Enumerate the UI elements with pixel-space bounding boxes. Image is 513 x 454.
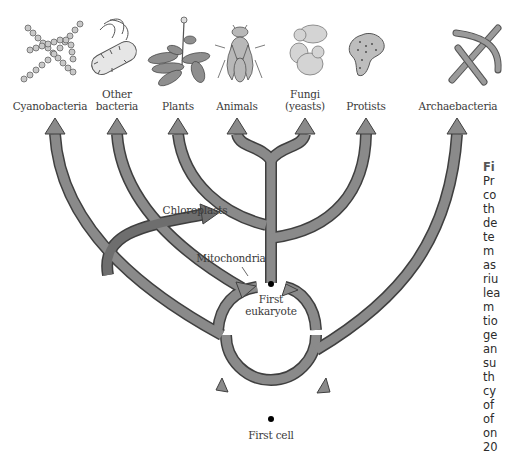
- fly-icon: [215, 25, 265, 82]
- caption-line: riu: [483, 272, 513, 286]
- caption-line: te: [483, 230, 513, 244]
- label-mitochondria: Mitochondria: [194, 252, 268, 264]
- caption-line: as: [483, 258, 513, 272]
- label-fungi-line1: Fungi: [280, 88, 330, 100]
- bacterium-icon: [88, 19, 140, 78]
- label-plants: Plants: [158, 100, 198, 112]
- caption-line: de: [483, 216, 513, 230]
- first-eukaryote-node: [268, 281, 274, 287]
- label-fungi: Fungi (yeasts): [280, 88, 330, 112]
- caption-line: an: [483, 342, 513, 356]
- caption-line: Pr: [483, 174, 513, 188]
- arrow-circle-right: [317, 378, 330, 393]
- arrow-plants: [168, 118, 188, 134]
- caption-line: 20: [483, 440, 513, 454]
- first-cell-node: [268, 416, 274, 422]
- caption-line: cy: [483, 384, 513, 398]
- label-other-bacteria-line2: bacteria: [92, 100, 142, 112]
- label-other-bacteria: Other bacteria: [92, 88, 142, 112]
- arrow-cyanobacteria: [45, 118, 65, 134]
- label-other-bacteria-line1: Other: [92, 88, 142, 100]
- label-archaebacteria: Archaebacteria: [412, 100, 504, 112]
- yeast-icon: [290, 25, 327, 75]
- label-protists: Protists: [340, 100, 392, 112]
- caption-line: lea: [483, 286, 513, 300]
- caption-line: m: [483, 300, 513, 314]
- mitochondria-leader-line: [242, 267, 248, 276]
- arrow-fungi: [295, 118, 315, 134]
- arrow-animals: [227, 118, 247, 134]
- label-first-eukaryote-line1: First: [240, 293, 302, 305]
- figure-caption-fragment: Fi Pr co th de te m as riu lea m tio ge …: [483, 160, 513, 454]
- caption-line: on: [483, 426, 513, 440]
- arrow-circle-left: [216, 378, 228, 392]
- label-first-eukaryote: First eukaryote: [240, 293, 302, 317]
- archaebacteria-icon: [452, 28, 498, 82]
- caption-line: th: [483, 202, 513, 216]
- caption-line: ge: [483, 328, 513, 342]
- plant-icon: [147, 17, 210, 89]
- cyanobacteria-icon: [21, 21, 83, 82]
- caption-line: of: [483, 412, 513, 426]
- caption-line: th: [483, 370, 513, 384]
- label-chloroplasts: Chloroplasts: [160, 204, 230, 216]
- label-first-eukaryote-line2: eukaryote: [240, 305, 302, 317]
- caption-line: Fi: [483, 160, 513, 174]
- label-animals: Animals: [212, 100, 262, 112]
- arrow-protists: [356, 118, 376, 134]
- label-fungi-line2: (yeasts): [280, 100, 330, 112]
- caption-line: su: [483, 356, 513, 370]
- label-cyanobacteria: Cyanobacteria: [5, 100, 95, 112]
- caption-line: co: [483, 188, 513, 202]
- label-first-cell: First cell: [240, 429, 302, 441]
- arrow-archaebacteria: [447, 118, 467, 134]
- caption-line: m: [483, 244, 513, 258]
- arrow-other-bacteria: [107, 118, 127, 134]
- amoeba-icon: [349, 33, 384, 75]
- caption-line: of: [483, 398, 513, 412]
- caption-line: tio: [483, 314, 513, 328]
